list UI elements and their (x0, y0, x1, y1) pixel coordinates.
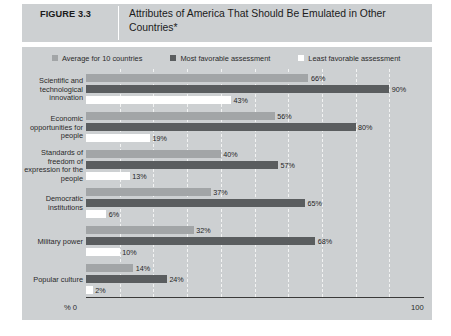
bar-least (86, 134, 150, 142)
bar-least (86, 286, 93, 294)
bar-value-label: 13% (132, 172, 146, 181)
bar-value-label: 57% (281, 161, 295, 170)
bar-item: 43% (86, 96, 248, 104)
bar-avg (86, 150, 221, 158)
bar-avg (86, 264, 133, 272)
category-label: Military power (21, 238, 83, 247)
x-axis-label-min: % 0 (64, 303, 77, 312)
bar-group: Scientific and technological innovation6… (86, 71, 423, 109)
bar-value-label: 14% (136, 264, 150, 273)
bar-most (86, 275, 167, 283)
figure-number: FIGURE 3.3 (22, 4, 118, 19)
bar-group: Standards of freedom of expression for t… (86, 147, 423, 185)
bar-most (86, 199, 305, 207)
bar-avg (86, 226, 194, 234)
bar-value-label: 40% (223, 150, 237, 159)
bar-value-label: 66% (311, 74, 325, 83)
bar-value-label: 37% (213, 188, 227, 197)
chart-panel: Average for 10 countries Most favorable … (22, 47, 432, 320)
bar-least (86, 210, 106, 218)
bar-item: 14% (86, 264, 150, 272)
category-label: Popular culture (21, 276, 83, 285)
bar-most (86, 85, 389, 93)
bar-item: 40% (86, 150, 238, 158)
bar-value-label: 56% (277, 112, 291, 121)
bar-avg (86, 74, 308, 82)
bar-least (86, 248, 120, 256)
bar-group: Economic opportunities for people56%80%1… (86, 109, 423, 147)
x-axis-baseline (86, 297, 424, 298)
category-label: Standards of freedom of expression for t… (21, 149, 83, 183)
bar-item: 32% (86, 226, 211, 234)
figure-container: FIGURE 3.3 Attributes of America That Sh… (0, 0, 451, 336)
chart-legend: Average for 10 countries Most favorable … (22, 50, 432, 66)
bar-item: 13% (86, 172, 147, 180)
bar-value-label: 2% (95, 286, 105, 295)
bar-item: 6% (86, 210, 119, 218)
legend-label-most-favorable: Most favorable assessment (180, 54, 270, 63)
legend-item-average: Average for 10 countries (52, 54, 142, 63)
bar-item: 10% (86, 248, 137, 256)
bar-item: 57% (86, 161, 295, 169)
bar-value-label: 24% (169, 275, 183, 284)
legend-swatch-least-favorable-icon (298, 55, 304, 61)
bar-value-label: 6% (109, 210, 119, 219)
bar-value-label: 43% (233, 96, 247, 105)
bar-group: Military power32%68%10% (86, 223, 423, 261)
bar-item: 66% (86, 74, 325, 82)
bar-item: 19% (86, 134, 167, 142)
bar-value-label: 80% (358, 123, 372, 132)
legend-item-most-favorable: Most favorable assessment (170, 54, 270, 63)
bar-value-label: 90% (392, 85, 406, 94)
plot-area: Scientific and technological innovation6… (86, 69, 423, 297)
x-axis-label-max: 100 (411, 303, 424, 312)
legend-swatch-most-favorable-icon (170, 55, 176, 61)
bar-value-label: 65% (308, 199, 322, 208)
bar-item: 56% (86, 112, 292, 120)
bar-group: Popular culture14%24%2% (86, 261, 423, 299)
bar-value-label: 10% (122, 248, 136, 257)
bar-least (86, 96, 231, 104)
bar-item: 2% (86, 286, 106, 294)
bar-most (86, 237, 315, 245)
bar-item: 90% (86, 85, 406, 93)
bar-item: 80% (86, 123, 372, 131)
bar-value-label: 68% (318, 237, 332, 246)
bar-most (86, 161, 278, 169)
bar-avg (86, 112, 275, 120)
legend-label-least-favorable: Least favorable assessment (308, 54, 400, 63)
category-label: Democratic institutions (21, 195, 83, 212)
bar-avg (86, 188, 211, 196)
bar-least (86, 172, 130, 180)
legend-item-least-favorable: Least favorable assessment (298, 54, 400, 63)
legend-label-average: Average for 10 countries (62, 54, 142, 63)
figure-header: FIGURE 3.3 Attributes of America That Sh… (22, 4, 432, 42)
bar-item: 24% (86, 275, 184, 283)
category-label: Economic opportunities for people (21, 115, 83, 141)
bar-value-label: 32% (196, 226, 210, 235)
bar-group: Democratic institutions37%65%6% (86, 185, 423, 223)
bar-item: 65% (86, 199, 322, 207)
bar-item: 68% (86, 237, 332, 245)
bar-item: 37% (86, 188, 228, 196)
bar-most (86, 123, 356, 131)
legend-swatch-average-icon (52, 55, 58, 61)
bar-value-label: 19% (153, 134, 167, 143)
page-title: Attributes of America That Should Be Emu… (119, 4, 432, 34)
category-label: Scientific and technological innovation (21, 77, 83, 103)
